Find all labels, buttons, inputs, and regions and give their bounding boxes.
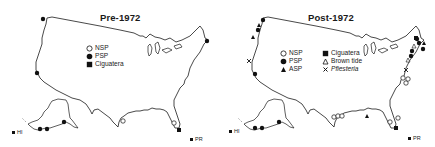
filled-triangle-icon: [280, 66, 287, 73]
legend-label: Ciguatera: [95, 60, 124, 68]
legend-label: NSP: [289, 49, 303, 57]
filled-circle-icon: [86, 53, 93, 60]
hawaii-label: HI: [229, 128, 240, 134]
legend-item-psp: PSP: [280, 57, 303, 65]
nsp-markers: [332, 76, 410, 124]
legend-item-nsp: NSP: [86, 44, 124, 52]
psp-markers: [253, 18, 425, 130]
legend-item-psp: PSP: [86, 52, 124, 60]
open-triangle-icon: [322, 58, 329, 65]
x-mark-icon: [322, 66, 329, 73]
puerto-rico-label: PR: [190, 136, 203, 142]
psp-markers: [35, 17, 209, 131]
filled-circle-icon: [280, 58, 287, 65]
ciguatera-marker-icon: [408, 137, 411, 140]
ciguatera-marker-icon: [12, 131, 15, 134]
legend-label: PSP: [95, 52, 108, 60]
map-panel-post-1972: Post-1972 NSP PSP ASP Ciguatera Brown ti…: [218, 0, 435, 147]
legend-label: Brown tide: [331, 57, 362, 65]
legend-item-asp: ASP: [280, 65, 303, 73]
legend-label: NSP: [95, 44, 109, 52]
legend-label: Ciguatera: [331, 49, 360, 57]
ciguatera-markers: [177, 128, 181, 132]
region-label-text: HI: [234, 128, 240, 134]
hawaii-label: HI: [12, 129, 23, 135]
region-label-text: PR: [413, 135, 421, 141]
nsp-markers: [121, 119, 176, 125]
open-circle-icon: [86, 45, 93, 52]
legend-label: PSP: [289, 57, 302, 65]
legend-left: NSP PSP ASP: [280, 49, 303, 73]
ciguatera-marker-icon: [229, 130, 232, 133]
legend-right: Ciguatera Brown tide Pfiesteria: [322, 49, 362, 73]
panel-title: Post-1972: [308, 12, 354, 23]
legend: NSP PSP Ciguatera: [86, 44, 124, 68]
filled-square-icon: [86, 61, 93, 68]
ciguatera-marker-icon: [190, 138, 193, 141]
legend-item-nsp: NSP: [280, 49, 303, 57]
legend-item-brown-tide: Brown tide: [322, 57, 362, 65]
legend-item-pfiesteria: Pfiesteria: [322, 65, 362, 73]
legend-item-ciguatera: Ciguatera: [86, 60, 124, 68]
legend-item-ciguatera: Ciguatera: [322, 49, 362, 57]
region-label-text: HI: [17, 129, 23, 135]
legend-label: ASP: [289, 65, 302, 73]
region-label-text: PR: [195, 136, 203, 142]
legend-label: Pfiesteria: [331, 65, 359, 73]
puerto-rico-label: PR: [408, 135, 421, 141]
filled-square-icon: [322, 50, 329, 57]
panel-title: Pre-1972: [100, 12, 140, 23]
open-circle-icon: [280, 50, 287, 57]
map-panel-pre-1972: Pre-1972 NSP PSP Ciguatera HI PR: [0, 0, 217, 147]
